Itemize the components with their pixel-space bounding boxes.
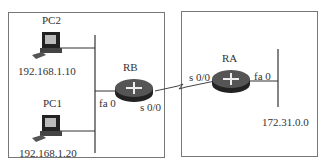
ra-lan-network-label: 172.31.0.0 [262,117,309,128]
ra-fa0-label: fa 0 [254,71,271,82]
rb-s00-label: s 0/0 [140,102,161,113]
pc1-computer-icon[interactable] [30,113,64,143]
rb-fa0-label: fa 0 [99,98,116,109]
ra-s00-label: s 0/0 [189,72,210,83]
ra-label: RA [222,53,237,64]
pc2-label: PC2 [42,15,61,26]
pc2-computer-icon[interactable] [30,30,64,60]
rb-label: RB [123,62,138,73]
ra-router-icon[interactable] [210,69,252,95]
pc1-label: PC1 [43,98,62,109]
pc1-ip-label: 192.168.1.20 [19,148,77,159]
pc2-ip-label: 192.168.1.10 [18,66,76,77]
